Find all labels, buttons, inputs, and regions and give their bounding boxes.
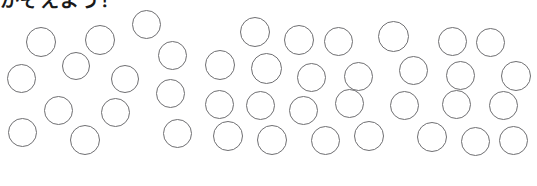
counting-circle (205, 90, 234, 119)
counting-circle (257, 125, 287, 155)
counting-circle (378, 21, 409, 52)
counting-worksheet: かぞえよう！ (0, 0, 537, 186)
counting-circle (324, 27, 353, 56)
counting-circle (499, 126, 528, 155)
counting-circle (399, 56, 428, 85)
counting-circle (284, 25, 314, 55)
counting-circle (335, 89, 364, 118)
counting-circle (246, 91, 275, 120)
counting-circle (489, 91, 518, 120)
right-circle-group (0, 0, 537, 186)
counting-circle (461, 127, 490, 156)
counting-circle (311, 126, 340, 155)
counting-circle (354, 121, 384, 151)
counting-circle (240, 17, 270, 47)
counting-circle (251, 53, 282, 84)
counting-circle (297, 63, 326, 92)
counting-circle (289, 96, 318, 125)
counting-circle (213, 121, 243, 151)
counting-circle (446, 61, 475, 90)
counting-circle (205, 50, 235, 80)
counting-circle (476, 28, 505, 57)
counting-circle (390, 91, 419, 120)
counting-circle (438, 27, 467, 56)
counting-circle (417, 122, 447, 152)
counting-circle (442, 90, 471, 119)
counting-circle (344, 62, 373, 91)
counting-circle (501, 61, 531, 91)
